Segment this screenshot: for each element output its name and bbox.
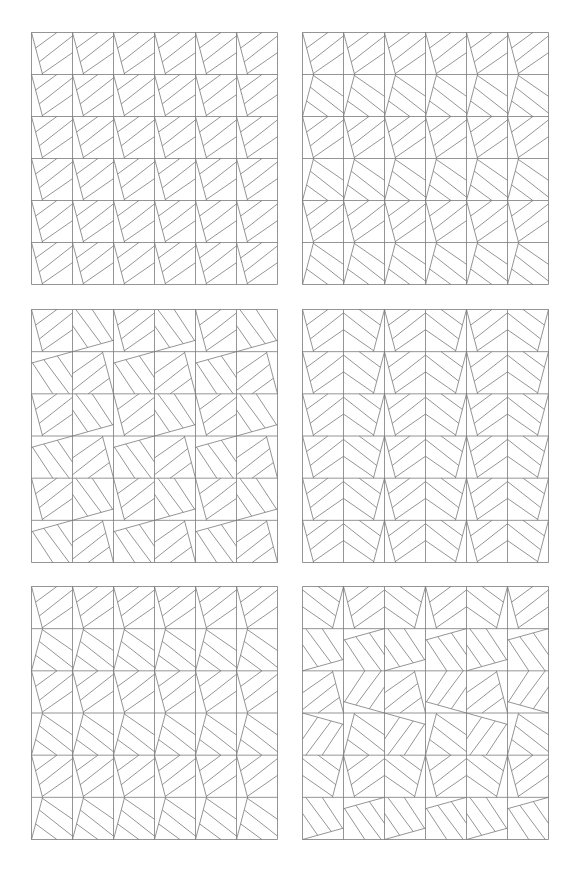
tiling-panel-2 xyxy=(302,32,549,285)
tiling-panel-5 xyxy=(31,586,278,840)
tiling-panel-3 xyxy=(31,309,278,563)
tiling-panel-6 xyxy=(302,586,549,840)
tiling-panel-4 xyxy=(302,309,549,563)
tiling-panel-1 xyxy=(31,32,278,285)
